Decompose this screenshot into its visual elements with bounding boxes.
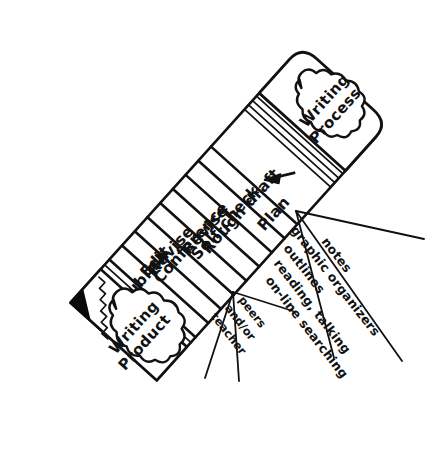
writing-process-pencil-diagram: Plan Rough draft Self-check Revise Confe…	[0, 0, 428, 461]
resource-ray-1	[296, 211, 424, 239]
diagram-canvas: Plan Rough draft Self-check Revise Confe…	[0, 0, 428, 461]
